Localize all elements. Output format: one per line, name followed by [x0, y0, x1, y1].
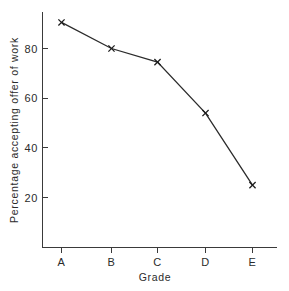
y-tick-group: [43, 49, 49, 198]
data-point-marker-e: [249, 182, 255, 188]
x-tick-label-b: B: [108, 256, 116, 268]
y-axis-title: Percentage accepting offer of work: [8, 37, 20, 223]
y-tick-label-60: 60: [25, 92, 38, 104]
x-tick-label-c: C: [153, 256, 162, 268]
data-series-line: [62, 22, 253, 185]
data-point-marker-d: [202, 110, 208, 116]
x-tick-label-e: E: [249, 256, 257, 268]
x-tick-label-d: D: [201, 256, 210, 268]
x-tick-labels: A B C D E: [58, 256, 257, 268]
line-chart-plot: 80 60 40 20 A B C D E Grade Percentage a…: [0, 0, 289, 291]
data-point-markers: [58, 19, 255, 188]
y-tick-label-20: 20: [25, 192, 38, 204]
x-axis-title: Grade: [139, 271, 172, 283]
x-tick-label-a: A: [58, 256, 66, 268]
chart-figure: 80 60 40 20 A B C D E Grade Percentage a…: [0, 0, 289, 291]
y-tick-label-40: 40: [25, 142, 38, 154]
y-tick-labels: 80 60 40 20: [25, 43, 38, 204]
x-tick-group: [62, 248, 253, 254]
y-tick-label-80: 80: [25, 43, 38, 55]
data-point-marker-a: [58, 19, 64, 25]
